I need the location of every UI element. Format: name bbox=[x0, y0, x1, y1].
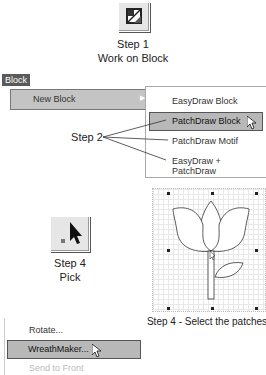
send-to-front-item: Send to Front bbox=[29, 363, 84, 373]
pick-tool-button[interactable] bbox=[50, 216, 90, 252]
pick-arrow-icon bbox=[51, 217, 89, 251]
cursor-icon bbox=[92, 344, 102, 358]
tulip-drawing bbox=[153, 189, 265, 311]
context-menu: Rotate... WreathMaker... Send to Front bbox=[4, 318, 141, 375]
wreathmaker-item[interactable]: WreathMaker... bbox=[7, 340, 141, 359]
step4-select-caption: Step 4 - Select the patches bbox=[146, 315, 266, 329]
step4-pick-title: Step 4 bbox=[40, 256, 100, 270]
patch-canvas[interactable] bbox=[152, 188, 266, 312]
rotate-item[interactable]: Rotate... bbox=[29, 325, 63, 335]
step4-pick-subtitle: Pick bbox=[40, 270, 100, 284]
step2-pointer-lines bbox=[0, 0, 266, 200]
